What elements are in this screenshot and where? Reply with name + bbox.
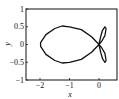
x-axis-label: x — [67, 90, 72, 99]
chart: −1−0.500.51 −2−10 x y — [0, 0, 119, 99]
y-tick-label: 1 — [20, 5, 24, 14]
plot-area — [41, 26, 107, 63]
curve-line — [41, 26, 107, 63]
y-axis-ticks: −1−0.500.51 — [9, 5, 28, 85]
axes-frame — [26, 9, 117, 80]
x-tick-label: −2 — [36, 81, 45, 90]
x-tick-label: 0 — [97, 81, 101, 90]
x-tick-label: −1 — [65, 81, 74, 90]
y-axis-label: y — [3, 42, 12, 47]
y-tick-label: 0.5 — [14, 22, 24, 31]
y-tick-label: −1 — [15, 76, 24, 85]
y-tick-label: 0 — [20, 40, 24, 49]
y-tick-label: −0.5 — [9, 58, 24, 67]
